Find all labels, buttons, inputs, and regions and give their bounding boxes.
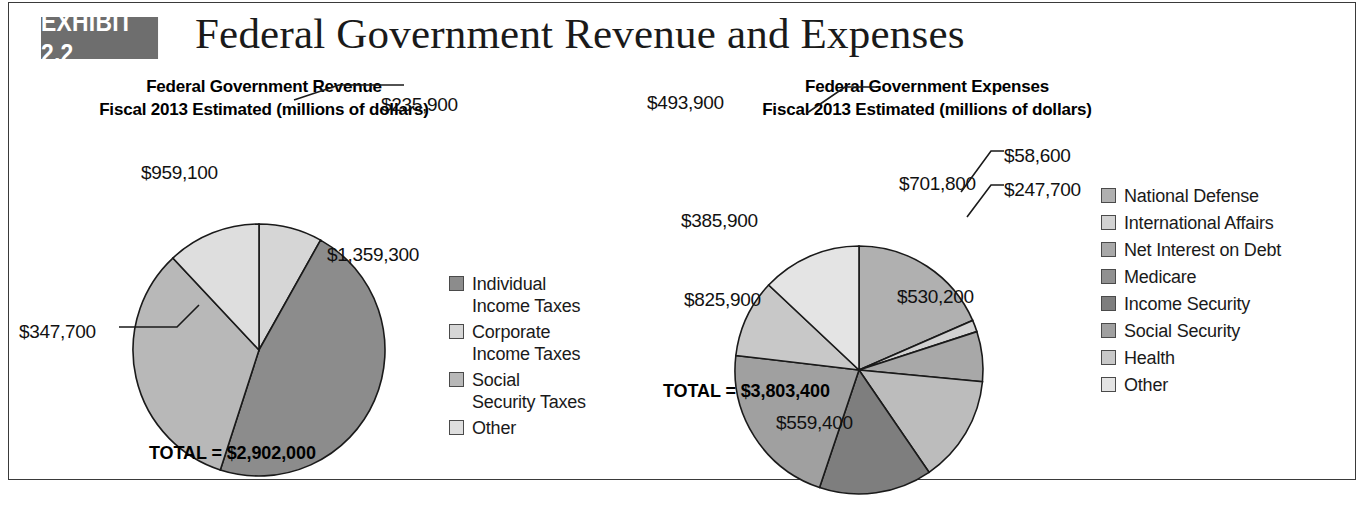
revenue-legend: Individual Income TaxesCorporate Income … <box>449 273 586 443</box>
slice-value-label: $347,700 <box>19 321 96 342</box>
legend-item[interactable]: National Defense <box>1101 185 1281 207</box>
legend-item-label: Social Security <box>1124 320 1240 342</box>
legend-swatch-icon <box>449 372 464 387</box>
slice-value-label: $58,600 <box>1004 145 1071 166</box>
legend-item[interactable]: Other <box>449 417 586 439</box>
exhibit-frame: EXHIBIT 2.2 Federal Government Revenue a… <box>8 2 1356 480</box>
legend-item[interactable]: Other <box>1101 374 1281 396</box>
legend-item-label: Net Interest on Debt <box>1124 239 1281 261</box>
exhibit-header: EXHIBIT 2.2 Federal Government Revenue a… <box>9 3 1355 65</box>
exhibit-number-badge: EXHIBIT 2.2 <box>41 17 158 59</box>
legend-swatch-icon <box>1101 215 1116 230</box>
slice-value-label: $235,900 <box>381 94 458 115</box>
slice-value-label: $493,900 <box>647 92 724 113</box>
legend-swatch-icon <box>449 420 464 435</box>
slice-value-label: $559,400 <box>776 412 853 433</box>
legend-item-label: Health <box>1124 347 1175 369</box>
exhibit-title: Federal Government Revenue and Expenses <box>195 9 965 58</box>
leader-line <box>807 87 877 113</box>
legend-item[interactable]: Medicare <box>1101 266 1281 288</box>
legend-item-label: International Affairs <box>1124 212 1274 234</box>
legend-item-label: Social Security Taxes <box>472 369 586 413</box>
legend-item-label: Other <box>472 417 516 439</box>
legend-item[interactable]: Social Security <box>1101 320 1281 342</box>
legend-item-label: Income Security <box>1124 293 1250 315</box>
legend-item[interactable]: Health <box>1101 347 1281 369</box>
revenue-total-label: TOTAL = $2,902,000 <box>149 443 316 464</box>
legend-item-label: Individual Income Taxes <box>472 273 580 317</box>
legend-swatch-icon <box>1101 296 1116 311</box>
legend-swatch-icon <box>449 276 464 291</box>
legend-swatch-icon <box>1101 269 1116 284</box>
legend-swatch-icon <box>1101 242 1116 257</box>
legend-item-label: National Defense <box>1124 185 1259 207</box>
legend-item-label: Other <box>1124 374 1168 396</box>
legend-item-label: Corporate Income Taxes <box>472 321 580 365</box>
slice-value-label: $247,700 <box>1004 179 1081 200</box>
legend-item-label: Medicare <box>1124 266 1196 288</box>
legend-item[interactable]: Net Interest on Debt <box>1101 239 1281 261</box>
legend-item[interactable]: International Affairs <box>1101 212 1281 234</box>
legend-swatch-icon <box>1101 323 1116 338</box>
slice-value-label: $701,800 <box>899 173 976 194</box>
legend-item[interactable]: Individual Income Taxes <box>449 273 586 317</box>
expenses-legend: National DefenseInternational AffairsNet… <box>1101 185 1281 401</box>
legend-item[interactable]: Corporate Income Taxes <box>449 321 586 365</box>
legend-swatch-icon <box>1101 188 1116 203</box>
slice-value-label: $959,100 <box>141 162 218 183</box>
revenue-panel: Federal Government Revenue Fiscal 2013 E… <box>9 65 639 481</box>
slice-value-label: $1,359,300 <box>327 244 419 265</box>
legend-item[interactable]: Income Security <box>1101 293 1281 315</box>
slice-value-label: $530,200 <box>897 286 974 307</box>
legend-swatch-icon <box>449 324 464 339</box>
slice-value-label: $385,900 <box>681 210 758 231</box>
expenses-total-label: TOTAL = $3,803,400 <box>663 381 830 402</box>
legend-swatch-icon <box>1101 350 1116 365</box>
slice-value-label: $825,900 <box>684 289 761 310</box>
legend-swatch-icon <box>1101 377 1116 392</box>
legend-item[interactable]: Social Security Taxes <box>449 369 586 413</box>
